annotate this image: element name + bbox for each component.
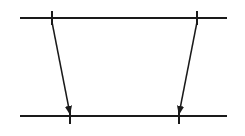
left-arrow: [52, 22, 70, 114]
right-arrow: [179, 22, 197, 114]
timing-diagram: [0, 0, 245, 136]
